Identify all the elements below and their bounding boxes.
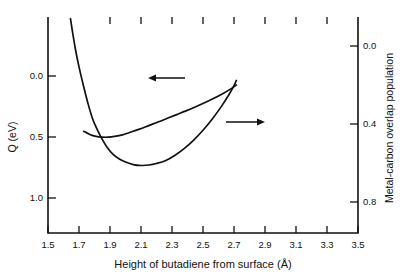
x-tick-label: 3.3 bbox=[320, 239, 333, 250]
y-left-tick-label: 1.0 bbox=[30, 192, 43, 203]
y-left-tick-label: 0.5 bbox=[30, 131, 43, 142]
y-right-tick-label: 0.0 bbox=[363, 40, 376, 51]
x-axis-title: Height of butadiene from surface (Å) bbox=[114, 258, 291, 270]
x-tick-label: 1.9 bbox=[103, 239, 116, 250]
y-left-axis-title: Q (eV) bbox=[6, 122, 18, 153]
x-tick-label: 2.7 bbox=[227, 239, 240, 250]
right-axis-arrow bbox=[226, 119, 265, 126]
curve-q-energy bbox=[70, 19, 236, 166]
y-right-axis-title: Metal-carbon overlap population bbox=[383, 53, 395, 203]
x-tick-label: 1.5 bbox=[41, 239, 54, 250]
x-tick-label: 2.3 bbox=[165, 239, 178, 250]
x-tick-label: 2.1 bbox=[134, 239, 147, 250]
left-arrow-head-icon bbox=[148, 75, 156, 82]
x-tick-labels: 1.5 1.7 1.9 2.1 2.3 2.5 2.7 2.9 3.1 3.3 … bbox=[41, 239, 364, 250]
curve-overlap-population bbox=[84, 85, 237, 137]
y-right-tick-label: 0.4 bbox=[363, 118, 376, 129]
chart-figure: 1.5 1.7 1.9 2.1 2.3 2.5 2.7 2.9 3.1 3.3 … bbox=[0, 0, 404, 278]
y-right-axis: 0.0 0.4 0.8 Metal-carbon overlap populat… bbox=[350, 40, 395, 207]
x-tick-label: 2.9 bbox=[258, 239, 271, 250]
x-tick-label: 3.5 bbox=[351, 239, 364, 250]
y-right-tick-label: 0.8 bbox=[363, 196, 376, 207]
left-axis-arrow bbox=[148, 75, 185, 82]
x-tick-label: 2.5 bbox=[196, 239, 209, 250]
y-left-tick-label: 0.0 bbox=[30, 70, 43, 81]
x-axis-ticks bbox=[48, 226, 358, 233]
x-tick-label: 1.7 bbox=[72, 239, 85, 250]
top-axis-ticks bbox=[110, 17, 327, 24]
right-arrow-head-icon bbox=[257, 119, 265, 126]
chart-canvas: 1.5 1.7 1.9 2.1 2.3 2.5 2.7 2.9 3.1 3.3 … bbox=[0, 0, 404, 278]
x-tick-label: 3.1 bbox=[289, 239, 302, 250]
